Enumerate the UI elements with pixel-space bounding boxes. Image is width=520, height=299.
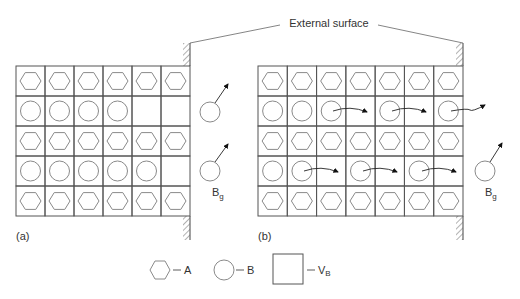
- hexagon-icon: [350, 193, 371, 210]
- lattice-cell: [434, 186, 463, 216]
- lattice-cell: [161, 186, 190, 216]
- circle-icon: [321, 101, 341, 121]
- hexagon-icon: [107, 193, 128, 210]
- hexagon-icon: [409, 133, 430, 150]
- hexagon-icon: [438, 73, 459, 90]
- lattice-cell: [16, 96, 45, 126]
- hexagon-icon: [262, 193, 283, 210]
- legend-label-b: B: [247, 264, 254, 276]
- lattice-cell: [132, 66, 161, 96]
- hexagon-icon: [379, 73, 400, 90]
- hexagon-icon: [78, 133, 99, 150]
- circle-icon: [21, 161, 41, 181]
- lattice-cell: [74, 186, 103, 216]
- circle-icon: [21, 101, 41, 121]
- lattice-cell: [103, 156, 132, 186]
- circle-icon: [438, 101, 458, 121]
- hexagon-icon: [20, 133, 41, 150]
- circle-icon: [380, 101, 400, 121]
- hexagon-icon: [321, 73, 342, 90]
- lattice-cell: [103, 126, 132, 156]
- legend-item-a: A: [150, 261, 192, 279]
- lattice-cell: [45, 96, 74, 126]
- gas-atom-b: [200, 102, 220, 122]
- hexagon-icon: [350, 133, 371, 150]
- lattice-cell: [132, 126, 161, 156]
- hexagon-icon: [136, 73, 157, 90]
- lattice-cell: [74, 156, 103, 186]
- hexagon-icon: [136, 193, 157, 210]
- lattice-cell: [161, 156, 190, 186]
- legend-label-vb: VB: [318, 264, 331, 278]
- circle-icon: [50, 101, 70, 121]
- lattice-cell: [258, 96, 287, 126]
- gas-atom-b: [475, 161, 495, 181]
- lattice-cell: [317, 126, 346, 156]
- circle-icon: [214, 260, 234, 280]
- circle-icon: [137, 161, 157, 181]
- lattice-cell: [258, 186, 287, 216]
- hexagon-icon: [150, 261, 170, 279]
- lattice-cell: [287, 156, 316, 186]
- circle-icon: [79, 161, 99, 181]
- hexagon-icon: [136, 133, 157, 150]
- hexagon-icon: [291, 73, 312, 90]
- lattice-cell: [317, 66, 346, 96]
- circle-icon: [50, 161, 70, 181]
- hexagon-icon: [49, 193, 70, 210]
- lattice-cell: [258, 126, 287, 156]
- hexagon-icon: [409, 193, 430, 210]
- hexagon-icon: [165, 73, 186, 90]
- panel-a-label: (a): [16, 230, 29, 242]
- lattice-cell: [103, 186, 132, 216]
- hexagon-icon: [379, 193, 400, 210]
- lattice-cell: [434, 126, 463, 156]
- lattice-cell: [404, 66, 433, 96]
- lattice-cell: [346, 96, 375, 126]
- lattice-cell: [346, 66, 375, 96]
- lattice-cell: [258, 156, 287, 186]
- lattice-cell: [132, 96, 161, 126]
- hexagon-icon: [78, 73, 99, 90]
- lattice-cell: [74, 126, 103, 156]
- lattice-cell: [161, 66, 190, 96]
- surface-wall-b: [456, 43, 463, 240]
- circle-icon: [292, 161, 312, 181]
- lattice-cell: [375, 156, 404, 186]
- lattice-cell: [317, 156, 346, 186]
- lattice-cell: [16, 126, 45, 156]
- hexagon-icon: [262, 133, 283, 150]
- lattice-cell: [317, 186, 346, 216]
- lattice-cell: [317, 96, 346, 126]
- hexagon-icon: [438, 133, 459, 150]
- lattice-cell: [434, 96, 463, 126]
- lattice-cell: [287, 126, 316, 156]
- lattice-cell: [375, 96, 404, 126]
- lattice-cell: [16, 66, 45, 96]
- lattice-cell: [404, 156, 433, 186]
- hexagon-icon: [107, 73, 128, 90]
- surface-wall-a: [183, 43, 190, 240]
- lattice-cell: [404, 96, 433, 126]
- lattice-cell: [45, 66, 74, 96]
- lattice-cell: [161, 126, 190, 156]
- panel-b-label: (b): [258, 230, 271, 242]
- lattice-cell: [16, 156, 45, 186]
- lattice-cell: [45, 186, 74, 216]
- lattice-cell: [161, 96, 190, 126]
- lattice-cell: [45, 126, 74, 156]
- hexagon-icon: [49, 133, 70, 150]
- gas-label-b: Bg: [485, 186, 497, 201]
- lattice-cell: [45, 156, 74, 186]
- hexagon-icon: [350, 73, 371, 90]
- hexagon-icon: [379, 133, 400, 150]
- lattice-cell: [346, 186, 375, 216]
- lattice-cell: [287, 96, 316, 126]
- gas-atom-b: [200, 161, 220, 181]
- lattice-cell: [346, 126, 375, 156]
- lattice-cell: [375, 66, 404, 96]
- gas-label-a: Bg: [212, 186, 224, 201]
- hexagon-icon: [20, 73, 41, 90]
- hexagon-icon: [20, 193, 41, 210]
- lattice-cell: [434, 66, 463, 96]
